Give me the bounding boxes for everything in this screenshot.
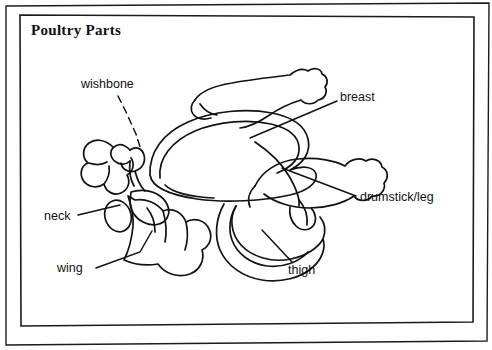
- leader-wishbone: [118, 96, 141, 150]
- label-neck: neck: [44, 210, 70, 223]
- label-wishbone: wishbone: [81, 78, 134, 91]
- label-drumstick-leg: drumstick/leg: [360, 191, 434, 204]
- outer-scan-border: [6, 3, 489, 345]
- label-wing: wing: [57, 262, 83, 275]
- page-title: Poultry Parts: [31, 22, 121, 39]
- poultry-parts-figure: Poultry Parts wishbone breast drumstick/…: [0, 0, 492, 350]
- mid-piece-shape: [130, 190, 169, 224]
- diagram-canvas: [0, 0, 492, 350]
- leader-neck: [78, 205, 120, 215]
- label-breast: breast: [340, 91, 375, 104]
- leader-wing: [96, 231, 152, 268]
- back-piece-shape: [124, 196, 211, 276]
- breast-shape: [150, 111, 316, 206]
- label-thigh: thigh: [288, 264, 315, 277]
- inner-frame-border: [20, 15, 474, 326]
- leader-thigh: [262, 230, 292, 262]
- wing-shape: [81, 140, 133, 194]
- back-bone-shape: [191, 69, 327, 128]
